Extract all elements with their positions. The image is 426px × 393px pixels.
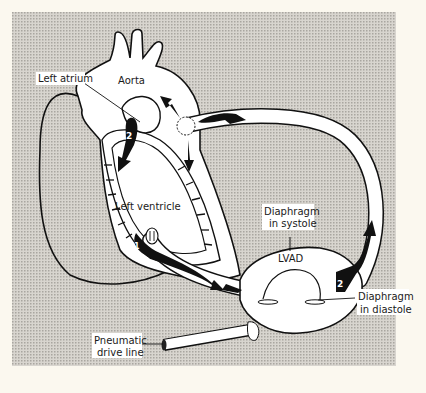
- drive-line-end: [162, 340, 167, 351]
- lvad-diagram: 2 1 2 Left atrium Aorta Left ventricle D…: [0, 0, 426, 393]
- label-left-ventricle: Left ventricle: [115, 201, 181, 212]
- anastomosis-site: [177, 117, 195, 135]
- marker-1: 1: [134, 242, 140, 251]
- label-diaphragm-diastole-1: Diaphragm: [358, 291, 414, 302]
- label-diaphragm-diastole-2: in diastole: [360, 304, 412, 315]
- label-diaphragm-systole-1: Diaphragm: [264, 206, 320, 217]
- drive-line-connector: [247, 322, 258, 341]
- label-left-atrium: Left atrium: [38, 73, 93, 84]
- mitral-valve-icon: [146, 228, 158, 244]
- label-pneumatic-1: Pneumatic: [94, 335, 147, 346]
- label-diaphragm-systole-2: in systole: [269, 218, 317, 229]
- label-aorta: Aorta: [118, 75, 145, 86]
- lvad-diaphragm-left-edge: [258, 300, 278, 304]
- marker-2-lvad: 2: [337, 279, 343, 289]
- marker-2-heart: 2: [126, 131, 132, 141]
- lvad-diaphragm-right-edge: [305, 300, 325, 304]
- label-lvad: LVAD: [278, 253, 304, 264]
- label-pneumatic-2: drive line: [97, 347, 144, 358]
